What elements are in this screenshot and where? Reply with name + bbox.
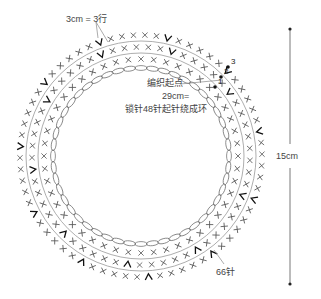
single-crochet-stitch xyxy=(138,56,143,61)
single-crochet-stitch xyxy=(42,166,48,172)
single-crochet-stitch xyxy=(69,238,76,245)
outer-count-label: 66针 xyxy=(216,268,235,277)
single-crochet-stitch xyxy=(57,62,64,69)
chain-stitch xyxy=(222,172,230,185)
single-crochet-stitch xyxy=(227,190,234,197)
single-crochet-stitch xyxy=(246,206,253,213)
increase-stitch xyxy=(30,209,39,218)
single-crochet-stitch xyxy=(206,53,213,60)
single-crochet-stitch xyxy=(32,178,38,184)
start-point-leader xyxy=(180,80,222,84)
single-crochet-stitch xyxy=(157,46,163,52)
increase-stitch xyxy=(168,48,176,56)
single-crochet-stitch xyxy=(125,57,131,63)
single-crochet-stitch xyxy=(231,76,238,83)
single-crochet-stitch xyxy=(221,201,228,208)
chain-stitch xyxy=(197,88,209,100)
start-point-label: 编织起点 xyxy=(147,79,183,88)
single-crochet-stitch xyxy=(180,52,187,59)
chain-stitch xyxy=(123,66,136,72)
single-crochet-stitch xyxy=(53,201,60,208)
single-crochet-stitch xyxy=(227,115,234,122)
chain-stitch xyxy=(135,66,147,71)
chain-stitch xyxy=(205,203,216,216)
row-marker-number: 3 xyxy=(231,57,236,66)
leader-lines xyxy=(96,22,224,264)
chain-stitch xyxy=(225,138,231,151)
chain-stitch xyxy=(146,66,159,72)
single-crochet-stitch xyxy=(30,143,36,149)
single-crochet-stitch xyxy=(69,252,76,259)
single-crochet-stitch xyxy=(157,273,163,279)
single-crochet-stitch xyxy=(234,140,240,146)
single-crochet-stitch xyxy=(25,109,32,116)
single-crochet-stitch xyxy=(151,57,157,63)
single-crochet-stitch xyxy=(172,256,179,263)
chain-desc-label: 锁针48针起针绕成环 xyxy=(125,105,207,114)
single-crochet-stitch xyxy=(244,95,251,102)
single-crochet-stitch xyxy=(53,104,60,111)
single-crochet-stitch xyxy=(76,62,83,69)
single-crochet-stitch xyxy=(179,266,186,273)
single-crochet-stitch xyxy=(228,213,235,220)
increase-stitch xyxy=(256,127,263,135)
single-crochet-stitch xyxy=(40,201,47,208)
single-crochet-stitch xyxy=(247,158,252,163)
single-crochet-stitch xyxy=(149,262,155,268)
single-crochet-stitch xyxy=(257,174,263,180)
single-crochet-stitch xyxy=(89,68,96,75)
increase-stitch xyxy=(59,229,68,238)
single-crochet-stitch xyxy=(75,49,82,56)
single-crochet-stitch xyxy=(78,229,85,236)
single-crochet-stitch xyxy=(176,38,183,45)
chain-stitch xyxy=(123,240,136,246)
single-crochet-stitch xyxy=(163,247,169,253)
increase-stitch xyxy=(239,191,247,200)
chain-stitch xyxy=(73,212,85,224)
single-crochet-stitch xyxy=(48,70,55,77)
single-crochet-stitch xyxy=(35,89,42,96)
single-crochet-stitch xyxy=(45,211,52,218)
increase-stitch xyxy=(164,34,172,41)
single-crochet-stitch xyxy=(86,43,93,50)
single-crochet-stitch xyxy=(226,234,233,241)
single-crochet-stitch xyxy=(137,262,142,267)
single-crochet-stitch xyxy=(234,166,240,172)
increase-stitch xyxy=(78,257,87,266)
single-crochet-stitch xyxy=(206,221,213,228)
chain-stitch xyxy=(225,161,231,174)
single-crochet-stitch xyxy=(52,221,59,228)
single-crochet-stitch xyxy=(59,245,66,252)
single-crochet-stitch xyxy=(232,128,238,134)
chain-stitch xyxy=(81,220,94,231)
single-crochet-stitch xyxy=(186,68,193,75)
single-crochet-stitch xyxy=(31,131,37,137)
single-crochet-stitch xyxy=(21,120,27,126)
chain-stitch xyxy=(157,67,170,75)
single-crochet-stitch xyxy=(233,99,240,106)
single-crochet-stitch xyxy=(29,99,36,106)
single-crochet-stitch xyxy=(17,155,22,160)
guide-circle xyxy=(38,53,244,259)
single-crochet-stitch xyxy=(142,32,147,37)
chain-stitch xyxy=(222,127,230,140)
increase-stitch xyxy=(29,166,36,174)
single-crochet-stitch xyxy=(168,270,174,276)
increase-stitch xyxy=(124,261,132,268)
single-crochet-stitch xyxy=(38,108,45,115)
single-crochet-stitch xyxy=(134,274,139,279)
single-crochet-stitch xyxy=(42,140,48,146)
dimension-endpoint-bottom xyxy=(288,282,291,285)
single-crochet-stitch xyxy=(247,146,253,152)
single-crochet-stitch xyxy=(151,249,157,255)
chain-stitch xyxy=(73,88,85,100)
single-crochet-stitch xyxy=(121,45,127,51)
single-crochet-stitch xyxy=(218,243,225,250)
single-crochet-stitch xyxy=(175,242,182,249)
single-crochet-stitch xyxy=(89,236,96,243)
single-crochet-stitch xyxy=(22,189,29,196)
single-crochet-stitch xyxy=(79,245,86,252)
single-crochet-stitch xyxy=(34,119,41,126)
single-crochet-stitch xyxy=(214,93,221,100)
single-crochet-stitch xyxy=(196,47,203,54)
